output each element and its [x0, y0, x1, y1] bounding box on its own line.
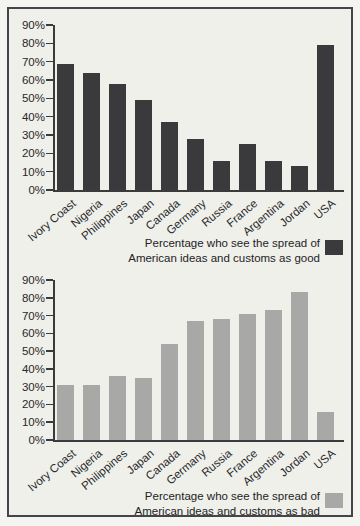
y-tick	[46, 116, 53, 118]
y-tick	[46, 61, 53, 63]
y-tick	[46, 134, 53, 136]
y-tick-label: 80%	[8, 292, 45, 304]
y-tick-label: 50%	[8, 92, 45, 104]
x-label-usa: USA	[312, 197, 338, 221]
chart-layer: 0%10%20%30%40%50%60%70%80%90%Ivory Coast…	[0, 0, 360, 526]
x-axis	[53, 190, 344, 192]
y-tick-label: 80%	[8, 37, 45, 49]
y-axis	[53, 25, 55, 190]
y-tick-label: 60%	[8, 327, 45, 339]
y-tick	[46, 315, 53, 317]
legend-good-line2: American ideas and customs as good	[128, 251, 320, 266]
bar-japan	[135, 378, 152, 440]
y-tick-label: 20%	[8, 147, 45, 159]
y-tick-label: 30%	[8, 381, 45, 393]
bar-nigeria	[83, 73, 100, 190]
bar-argentina	[265, 161, 282, 190]
y-axis	[53, 280, 55, 440]
y-tick-label: 0%	[8, 434, 45, 446]
y-tick-label: 90%	[8, 19, 45, 31]
bar-france	[239, 314, 256, 440]
bar-russia	[213, 161, 230, 190]
legend-good-text: Percentage who see the spread of America…	[128, 236, 320, 266]
legend-bad-line2: American ideas and customs as bad	[135, 504, 320, 519]
y-tick	[46, 368, 53, 370]
bar-france	[239, 144, 256, 190]
y-tick-label: 70%	[8, 56, 45, 68]
y-tick-label: 10%	[8, 416, 45, 428]
y-tick	[46, 421, 53, 423]
x-label-usa: USA	[312, 447, 338, 471]
y-tick	[46, 439, 53, 441]
bar-japan	[135, 100, 152, 190]
bar-jordan	[291, 166, 308, 190]
y-tick-label: 40%	[8, 363, 45, 375]
bar-ivory-coast	[57, 385, 74, 440]
legend-good-line1: Percentage who see the spread of	[128, 236, 320, 251]
y-tick-label: 60%	[8, 74, 45, 86]
y-tick-label: 70%	[8, 310, 45, 322]
bar-philippines	[109, 376, 126, 440]
y-tick-label: 0%	[8, 184, 45, 196]
y-tick-label: 90%	[8, 274, 45, 286]
bar-canada	[161, 344, 178, 440]
bar-usa	[317, 412, 334, 440]
y-tick-label: 40%	[8, 111, 45, 123]
y-tick-label: 30%	[8, 129, 45, 141]
bar-russia	[213, 319, 230, 440]
y-tick-label: 10%	[8, 166, 45, 178]
y-tick-label: 20%	[8, 398, 45, 410]
legend-bad-line1: Percentage who see the spread of	[135, 489, 320, 504]
bar-germany	[187, 321, 204, 440]
legend-good: Percentage who see the spread of America…	[0, 236, 360, 272]
legend-good-swatch	[325, 240, 343, 255]
y-tick	[46, 279, 53, 281]
y-tick	[46, 350, 53, 352]
x-axis	[53, 440, 344, 442]
bar-argentina	[265, 310, 282, 440]
legend-bad: Percentage who see the spread of America…	[0, 489, 360, 525]
legend-bad-text: Percentage who see the spread of America…	[135, 489, 320, 519]
y-tick	[46, 79, 53, 81]
bar-canada	[161, 122, 178, 190]
bar-germany	[187, 139, 204, 190]
legend-bad-swatch	[325, 493, 343, 508]
bar-philippines	[109, 84, 126, 190]
bar-ivory-coast	[57, 64, 74, 191]
bar-jordan	[291, 292, 308, 440]
y-tick-label: 50%	[8, 345, 45, 357]
y-tick	[46, 171, 53, 173]
y-tick	[46, 98, 53, 100]
y-tick	[46, 153, 53, 155]
y-tick	[46, 189, 53, 191]
y-tick	[46, 386, 53, 388]
y-tick	[46, 297, 53, 299]
bar-usa	[317, 45, 334, 190]
bar-nigeria	[83, 385, 100, 440]
y-tick	[46, 24, 53, 26]
y-tick	[46, 43, 53, 45]
y-tick	[46, 333, 53, 335]
y-tick	[46, 404, 53, 406]
